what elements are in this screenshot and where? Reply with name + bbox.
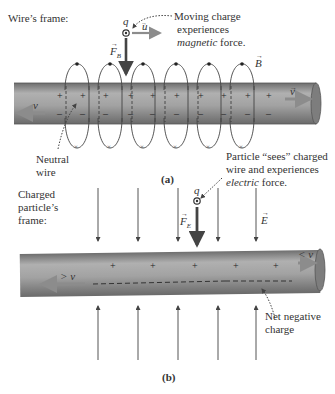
- positive-charge-b: +: [273, 260, 279, 271]
- svg-text:→: →: [262, 209, 269, 217]
- annotation-particle-line2: wire and experiences: [226, 163, 319, 175]
- negative-charge: –: [79, 108, 86, 119]
- e-field-arrows-bottom: [98, 306, 256, 360]
- annotation-charge-line1: Moving charge: [174, 10, 241, 22]
- positive-charge: +: [128, 90, 134, 101]
- field-loop-cross: ×: [107, 143, 111, 151]
- annotation-net-charge-line1: Net negative: [265, 310, 321, 322]
- svg-text:→: →: [111, 40, 118, 48]
- annotation-charge-line2: experiences: [177, 23, 229, 35]
- field-loop-top-dot: [108, 62, 112, 66]
- e-field-arrows-top: [98, 188, 256, 241]
- wires-frame-label: Wire’s frame:: [8, 12, 68, 24]
- field-loop-top-dot: [75, 62, 79, 66]
- positive-charge-b: +: [192, 260, 198, 271]
- negative-charge: –: [265, 108, 272, 119]
- positive-charge: +: [266, 90, 272, 101]
- frame-b-line3: frame:: [18, 214, 47, 226]
- field-loop-cross: ×: [140, 143, 144, 151]
- positive-charge: +: [245, 90, 251, 101]
- positive-charge-b: +: [110, 260, 116, 271]
- field-loop-cross: ×: [173, 143, 177, 151]
- field-loop-top-dot: [174, 62, 178, 66]
- charge-q-b-label: q: [194, 184, 200, 196]
- annotation-charge-pointer: [133, 16, 172, 29]
- positive-charge-b: +: [233, 260, 239, 271]
- annotation-wire-line1: Neutral: [36, 153, 69, 165]
- positive-charge: +: [174, 90, 180, 101]
- negative-charge: –: [244, 108, 251, 119]
- positive-charge-b: +: [150, 260, 156, 271]
- negative-charge: –: [56, 108, 63, 119]
- annotation-particle-line3: electric force.: [226, 176, 287, 188]
- svg-text:→: →: [290, 84, 297, 92]
- field-loop-top-dot: [207, 62, 211, 66]
- wire-a-end: [311, 83, 321, 124]
- positive-charge: +: [198, 90, 204, 101]
- panel-b: Charged particle’s frame: Particle “sees…: [18, 150, 328, 384]
- svg-text:→: →: [181, 210, 188, 218]
- charge-q-a-label: q: [123, 15, 129, 27]
- caption-a: (a): [161, 173, 174, 186]
- positive-charge: +: [221, 90, 227, 101]
- annotation-particle-line1: Particle “sees” charged: [226, 150, 328, 162]
- frame-b-line1: Charged: [18, 188, 56, 200]
- annotation-wire-line2: wire: [36, 166, 56, 178]
- frame-b-line2: particle’s: [18, 201, 58, 213]
- negative-charge: –: [173, 108, 180, 119]
- field-loop-top-dot: [141, 62, 145, 66]
- electron-velocity-label-b: > v: [60, 270, 75, 282]
- positive-charge: +: [103, 90, 109, 101]
- field-loop-cross: ×: [206, 143, 210, 151]
- annotation-net-charge-line2: charge: [265, 323, 294, 335]
- field-loop-cross: ×: [74, 143, 78, 151]
- svg-text:→: →: [141, 20, 147, 26]
- annotation-charge-line3: magnetic force.: [177, 36, 246, 48]
- positive-charge: +: [80, 90, 86, 101]
- annotation-particle-pointer: [201, 178, 222, 198]
- electron-velocity-label: v: [33, 99, 38, 111]
- diagram-canvas: Wire’s frame: ++++++++++–––––––––– v v ×…: [0, 0, 335, 394]
- svg-text:→: →: [256, 52, 263, 60]
- caption-b: (b): [162, 371, 176, 384]
- negative-charge: –: [127, 108, 134, 119]
- negative-charge: –: [102, 108, 109, 119]
- wire-b-end: [315, 249, 325, 291]
- ion-velocity-label-b: < v: [298, 248, 313, 260]
- field-loop-top-dot: [240, 62, 244, 66]
- positive-charge: +: [57, 90, 63, 101]
